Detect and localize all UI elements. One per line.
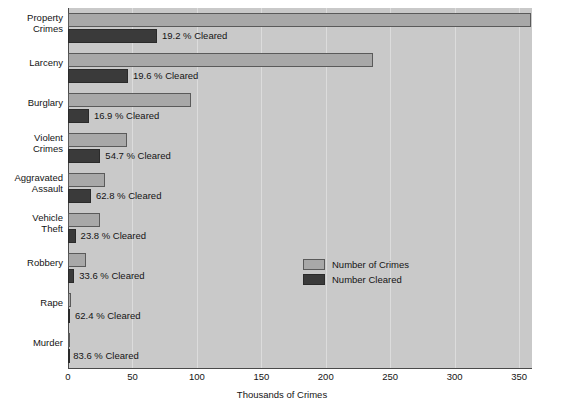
legend-swatch-total-icon xyxy=(303,259,325,270)
legend-label-number-of-crimes: Number of Crimes xyxy=(332,259,409,270)
legend: Number of Crimes Number Cleared xyxy=(303,258,453,288)
gridline xyxy=(519,8,520,368)
bar-total-rape xyxy=(68,293,71,307)
x-tick-label: 300 xyxy=(447,371,463,382)
category-label-line: Crimes xyxy=(0,23,63,35)
x-axis-line xyxy=(68,368,532,369)
category-label-line: Property xyxy=(0,12,63,24)
bar-total-aggravated-assault xyxy=(68,173,105,187)
bar-cleared-property-crimes xyxy=(68,29,157,43)
cleared-percent-label: 16.9 % Cleared xyxy=(94,110,159,121)
category-label-line: Murder xyxy=(0,337,63,349)
category-label-burglary: Burglary xyxy=(0,97,63,109)
bar-cleared-larceny xyxy=(68,69,128,83)
category-label-vehicle-theft: VehicleTheft xyxy=(0,212,63,235)
bar-cleared-rape xyxy=(68,309,70,323)
gridline xyxy=(390,8,391,368)
x-tick-label: 350 xyxy=(511,371,527,382)
category-label-rape: Rape xyxy=(0,297,63,309)
category-label-line: Assault xyxy=(0,183,63,195)
category-label-property-crimes: PropertyCrimes xyxy=(0,12,63,35)
bar-cleared-murder xyxy=(68,349,70,363)
bar-total-vehicle-theft xyxy=(68,213,100,227)
bar-total-burglary xyxy=(68,93,191,107)
x-tick-label: 0 xyxy=(65,371,70,382)
legend-label-number-cleared: Number Cleared xyxy=(332,274,402,285)
x-axis-title: Thousands of Crimes xyxy=(0,389,564,400)
x-tick-label: 200 xyxy=(318,371,334,382)
category-label-line: Crimes xyxy=(0,143,63,155)
legend-item-number-cleared: Number Cleared xyxy=(303,273,453,286)
cleared-percent-label: 83.6 % Cleared xyxy=(73,350,138,361)
category-label-line: Larceny xyxy=(0,57,63,69)
cleared-percent-label: 33.6 % Cleared xyxy=(79,270,144,281)
cleared-percent-label: 19.6 % Cleared xyxy=(133,70,198,81)
cleared-percent-label: 54.7 % Cleared xyxy=(105,150,170,161)
category-label-robbery: Robbery xyxy=(0,257,63,269)
bar-total-property-crimes xyxy=(68,13,531,27)
bar-total-robbery xyxy=(68,253,86,267)
bar-total-violent-crimes xyxy=(68,133,127,147)
legend-item-number-of-crimes: Number of Crimes xyxy=(303,258,453,271)
category-label-aggravated-assault: AggravatedAssault xyxy=(0,172,63,195)
category-label-line: Violent xyxy=(0,132,63,144)
x-tick-label: 50 xyxy=(127,371,138,382)
bar-cleared-vehicle-theft xyxy=(68,229,76,243)
bar-cleared-violent-crimes xyxy=(68,149,100,163)
bar-total-murder xyxy=(68,333,70,347)
bar-cleared-aggravated-assault xyxy=(68,189,91,203)
category-label-larceny: Larceny xyxy=(0,57,63,69)
category-label-violent-crimes: ViolentCrimes xyxy=(0,132,63,155)
category-label-line: Aggravated xyxy=(0,172,63,184)
bar-total-larceny xyxy=(68,53,373,67)
category-label-line: Robbery xyxy=(0,257,63,269)
cleared-percent-label: 23.8 % Cleared xyxy=(81,230,146,241)
category-label-line: Rape xyxy=(0,297,63,309)
x-tick-label: 250 xyxy=(382,371,398,382)
legend-swatch-cleared-icon xyxy=(303,274,325,285)
category-label-murder: Murder xyxy=(0,337,63,349)
category-label-line: Vehicle xyxy=(0,212,63,224)
gridline xyxy=(455,8,456,368)
x-tick-label: 100 xyxy=(189,371,205,382)
cleared-percent-label: 62.4 % Cleared xyxy=(75,310,140,321)
category-label-line: Burglary xyxy=(0,97,63,109)
cleared-percent-label: 19.2 % Cleared xyxy=(162,30,227,41)
crime-clearance-bar-chart: PropertyCrimesLarcenyBurglaryViolentCrim… xyxy=(0,0,564,408)
bar-cleared-burglary xyxy=(68,109,89,123)
category-label-line: Theft xyxy=(0,223,63,235)
cleared-percent-label: 62.8 % Cleared xyxy=(96,190,161,201)
bar-cleared-robbery xyxy=(68,269,74,283)
x-tick-label: 150 xyxy=(253,371,269,382)
